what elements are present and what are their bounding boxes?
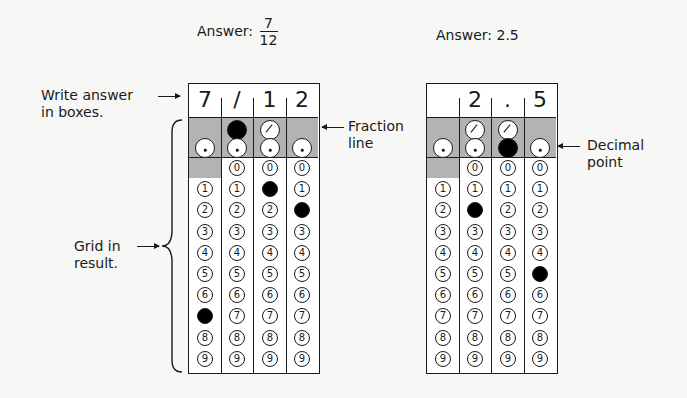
answer-box-1[interactable]: 7 bbox=[189, 85, 221, 115]
digit-bubble-col3-6[interactable]: 6 bbox=[262, 287, 278, 303]
digit-bubble-col3-2[interactable]: 2 bbox=[262, 202, 278, 218]
digit-bubble-col1-3[interactable]: 3 bbox=[435, 224, 451, 240]
digit-bubble-col2-2[interactable]: 2 bbox=[467, 202, 483, 218]
digit-bubble-col2-8[interactable]: 8 bbox=[467, 330, 483, 346]
digit-bubble-col3-9[interactable]: 9 bbox=[262, 351, 278, 367]
digit-bubble-col3-0[interactable]: 0 bbox=[262, 160, 278, 176]
digit-bubble-col2-6[interactable]: 6 bbox=[229, 287, 245, 303]
fraction-line-arrow-icon bbox=[322, 127, 344, 128]
decimal-bubble-col1[interactable] bbox=[195, 138, 215, 158]
decimal-bubble-col4[interactable] bbox=[530, 138, 550, 158]
digit-bubble-col1-9[interactable]: 9 bbox=[197, 351, 213, 367]
digit-bubble-col1-6[interactable]: 6 bbox=[435, 287, 451, 303]
decimal-bubble-col2[interactable] bbox=[465, 138, 485, 158]
decimal-bubble-col3[interactable] bbox=[260, 138, 280, 158]
digit-bubble-col3-4[interactable]: 4 bbox=[500, 245, 516, 261]
digit-bubble-col2-8[interactable]: 8 bbox=[229, 330, 245, 346]
digit-bubble-col2-7[interactable]: 7 bbox=[229, 308, 245, 324]
digit-bubble-col2-9[interactable]: 9 bbox=[229, 351, 245, 367]
digit-bubble-col2-5[interactable]: 5 bbox=[229, 266, 245, 282]
digit-bubble-col4-9[interactable]: 9 bbox=[294, 351, 310, 367]
digit-bubble-col1-9[interactable]: 9 bbox=[435, 351, 451, 367]
digit-bubble-col1-3[interactable]: 3 bbox=[197, 224, 213, 240]
digit-bubble-col2-1[interactable]: 1 bbox=[467, 181, 483, 197]
digit-bubble-col4-8[interactable]: 8 bbox=[294, 330, 310, 346]
digit-bubble-col2-5[interactable]: 5 bbox=[467, 266, 483, 282]
digit-bubble-col4-6[interactable]: 6 bbox=[532, 287, 548, 303]
digit-bubble-col2-3[interactable]: 3 bbox=[467, 224, 483, 240]
digit-bubble-col4-8[interactable]: 8 bbox=[532, 330, 548, 346]
decimal-bubble-col4[interactable] bbox=[292, 138, 312, 158]
digit-bubble-col4-2[interactable]: 2 bbox=[532, 202, 548, 218]
digit-bubble-col2-0[interactable]: 0 bbox=[467, 160, 483, 176]
digit-bubble-col2-1[interactable]: 1 bbox=[229, 181, 245, 197]
digit-bubble-col4-7[interactable]: 7 bbox=[532, 308, 548, 324]
decimal-bubble-col2[interactable] bbox=[227, 138, 247, 158]
digit-bubble-col2-2[interactable]: 2 bbox=[229, 202, 245, 218]
digit-bubble-col2-9[interactable]: 9 bbox=[467, 351, 483, 367]
digit-bubble-col2-4[interactable]: 4 bbox=[229, 245, 245, 261]
digit-bubble-col4-4[interactable]: 4 bbox=[532, 245, 548, 261]
digit-bubble-col3-2[interactable]: 2 bbox=[500, 202, 516, 218]
digit-bubble-col1-2[interactable]: 2 bbox=[435, 202, 451, 218]
digit-bubble-col1-6[interactable]: 6 bbox=[197, 287, 213, 303]
digit-bubble-col3-5[interactable]: 5 bbox=[262, 266, 278, 282]
digit-bubble-col3-8[interactable]: 8 bbox=[500, 330, 516, 346]
digit-bubble-col1-7[interactable]: 7 bbox=[435, 308, 451, 324]
fraction-bubble-col2[interactable] bbox=[465, 120, 485, 140]
decimal-bubble-col1[interactable] bbox=[433, 138, 453, 158]
digit-bubble-col3-0[interactable]: 0 bbox=[500, 160, 516, 176]
digit-bubble-col1-1[interactable]: 1 bbox=[435, 181, 451, 197]
digit-bubble-col1-8[interactable]: 8 bbox=[435, 330, 451, 346]
digit-bubble-col3-7[interactable]: 7 bbox=[262, 308, 278, 324]
digit-bubble-col1-2[interactable]: 2 bbox=[197, 202, 213, 218]
digit-bubble-col4-2[interactable]: 2 bbox=[294, 202, 310, 218]
digit-bubble-col1-4[interactable]: 4 bbox=[435, 245, 451, 261]
digit-bubble-col3-5[interactable]: 5 bbox=[500, 266, 516, 282]
answer-box-3[interactable]: 1 bbox=[253, 85, 286, 115]
digit-bubble-col2-4[interactable]: 4 bbox=[467, 245, 483, 261]
digit-bubble-col4-9[interactable]: 9 bbox=[532, 351, 548, 367]
digit-bubble-col3-3[interactable]: 3 bbox=[500, 224, 516, 240]
digit-bubble-col3-4[interactable]: 4 bbox=[262, 245, 278, 261]
digit-bubble-col4-6[interactable]: 6 bbox=[294, 287, 310, 303]
answer-box-4[interactable]: 2 bbox=[286, 85, 318, 115]
digit-bubble-col3-1[interactable]: 1 bbox=[500, 181, 516, 197]
digit-bubble-col3-6[interactable]: 6 bbox=[500, 287, 516, 303]
digit-bubble-col2-3[interactable]: 3 bbox=[229, 224, 245, 240]
digit-bubble-col1-7[interactable]: 7 bbox=[197, 308, 213, 324]
column-divider bbox=[524, 117, 525, 373]
fraction-bubble-col3[interactable] bbox=[260, 120, 280, 140]
digit-bubble-col2-0[interactable]: 0 bbox=[229, 160, 245, 176]
digit-bubble-col1-1[interactable]: 1 bbox=[197, 181, 213, 197]
digit-bubble-col4-4[interactable]: 4 bbox=[294, 245, 310, 261]
answer-box-2[interactable]: / bbox=[221, 85, 253, 115]
digit-bubble-col4-1[interactable]: 1 bbox=[532, 181, 548, 197]
digit-bubble-col4-3[interactable]: 3 bbox=[294, 224, 310, 240]
fraction-bubble-col2[interactable] bbox=[227, 120, 247, 140]
digit-bubble-col4-7[interactable]: 7 bbox=[294, 308, 310, 324]
digit-bubble-col4-1[interactable]: 1 bbox=[294, 181, 310, 197]
answer-box-3[interactable]: . bbox=[491, 85, 524, 115]
decimal-bubble-col3[interactable] bbox=[498, 138, 518, 158]
digit-bubble-col4-5[interactable]: 5 bbox=[294, 266, 310, 282]
answer-box-2[interactable]: 2 bbox=[459, 85, 491, 115]
digit-bubble-col4-5[interactable]: 5 bbox=[532, 266, 548, 282]
digit-bubble-col3-8[interactable]: 8 bbox=[262, 330, 278, 346]
digit-bubble-col3-9[interactable]: 9 bbox=[500, 351, 516, 367]
digit-bubble-col4-0[interactable]: 0 bbox=[532, 160, 548, 176]
digit-bubble-col1-8[interactable]: 8 bbox=[197, 330, 213, 346]
digit-bubble-col3-7[interactable]: 7 bbox=[500, 308, 516, 324]
digit-bubble-col1-5[interactable]: 5 bbox=[435, 266, 451, 282]
fraction-bubble-col3[interactable] bbox=[498, 120, 518, 140]
digit-bubble-col1-4[interactable]: 4 bbox=[197, 245, 213, 261]
digit-bubble-col1-5[interactable]: 5 bbox=[197, 266, 213, 282]
digit-bubble-col2-7[interactable]: 7 bbox=[467, 308, 483, 324]
digit-bubble-col2-6[interactable]: 6 bbox=[467, 287, 483, 303]
answer-box-4[interactable]: 5 bbox=[524, 85, 556, 115]
write-answer-label: Write answer in boxes. bbox=[41, 87, 133, 121]
digit-bubble-col3-3[interactable]: 3 bbox=[262, 224, 278, 240]
digit-bubble-col3-1[interactable]: 1 bbox=[262, 181, 278, 197]
digit-bubble-col4-0[interactable]: 0 bbox=[294, 160, 310, 176]
digit-bubble-col4-3[interactable]: 3 bbox=[532, 224, 548, 240]
